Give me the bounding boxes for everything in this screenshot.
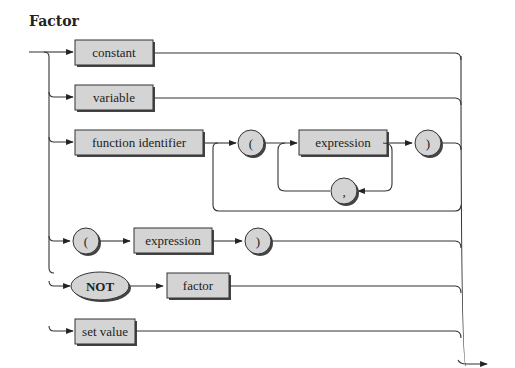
svg-text:NOT: NOT xyxy=(86,279,115,294)
node-rparen-func: ) xyxy=(415,130,443,158)
railroad-diagram: constant variable function identifier ( … xyxy=(0,0,515,368)
svg-text:,: , xyxy=(342,184,345,199)
node-lparen: ( xyxy=(73,228,101,256)
node-variable: variable xyxy=(75,85,155,112)
node-expression-func: expression xyxy=(299,130,389,157)
node-factor: factor xyxy=(167,273,231,300)
svg-text:factor: factor xyxy=(183,278,214,293)
node-lparen-func: ( xyxy=(238,130,266,158)
svg-text:constant: constant xyxy=(92,45,136,60)
svg-text:set value: set value xyxy=(82,324,128,339)
node-comma: , xyxy=(331,178,359,206)
svg-text:): ) xyxy=(256,234,260,249)
node-expression: expression xyxy=(134,228,214,255)
node-not: NOT xyxy=(71,272,131,302)
svg-text:(: ( xyxy=(249,136,253,151)
node-set-value: set value xyxy=(75,319,137,346)
node-rparen: ) xyxy=(245,228,273,256)
node-function-identifier: function identifier xyxy=(75,130,205,157)
svg-text:variable: variable xyxy=(93,90,135,105)
svg-text:): ) xyxy=(426,136,430,151)
svg-text:expression: expression xyxy=(315,135,371,150)
exit-arrow xyxy=(458,360,487,364)
svg-text:function identifier: function identifier xyxy=(92,135,187,150)
svg-text:(: ( xyxy=(84,234,88,249)
node-constant: constant xyxy=(75,40,155,67)
svg-text:expression: expression xyxy=(145,233,201,248)
